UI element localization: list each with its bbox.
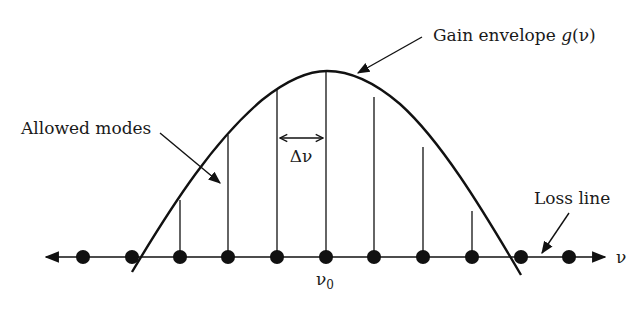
mode-dot [416, 250, 430, 264]
gain-envelope-pointer-arrow [358, 37, 422, 73]
gain-envelope-text: Gain envelope [433, 25, 561, 45]
loss-line-pointer-arrow [542, 213, 569, 253]
mode-dot [221, 250, 235, 264]
center-frequency-label: ν0 [316, 269, 334, 292]
frequency-axis-label: ν [616, 247, 626, 267]
center-frequency-subscript: 0 [326, 278, 334, 292]
gain-symbol: g [561, 25, 572, 45]
mode-dot [76, 250, 90, 264]
mode-dot [367, 250, 381, 264]
center-frequency-symbol: ν [316, 269, 326, 289]
allowed-modes-pointer-arrow [160, 133, 220, 183]
allowed-modes-label: Allowed modes [20, 118, 151, 138]
mode-dot [125, 250, 139, 264]
mode-lines [180, 71, 472, 257]
mode-dot [514, 250, 528, 264]
gain-envelope-label: Gain envelope g(ν) [433, 25, 596, 45]
mode-dot [562, 250, 576, 264]
mode-dot [319, 250, 333, 264]
mode-dot [465, 250, 479, 264]
mode-spacing-label: Δν [290, 146, 313, 166]
loss-line-label: Loss line [534, 188, 610, 208]
gain-envelope-diagram: Δν Gain envelope g(ν) Allowed modes Loss… [0, 0, 640, 315]
gain-argument: (ν) [572, 25, 596, 45]
mode-dot [270, 250, 284, 264]
mode-dot [173, 250, 187, 264]
